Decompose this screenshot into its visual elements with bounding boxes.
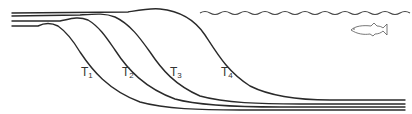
profile-T2 — [12, 18, 405, 107]
water-surface-waves — [200, 12, 410, 15]
fish-icon — [351, 23, 387, 36]
label-T2: T2 — [122, 66, 134, 80]
label-T4: T4 — [221, 66, 233, 80]
profile-T4 — [12, 9, 405, 100]
delta-progradation-diagram — [0, 0, 412, 114]
profile-T1 — [12, 23, 405, 110]
label-T1: T1 — [81, 66, 93, 80]
profile-T3 — [12, 14, 405, 104]
label-T3: T3 — [170, 66, 182, 80]
